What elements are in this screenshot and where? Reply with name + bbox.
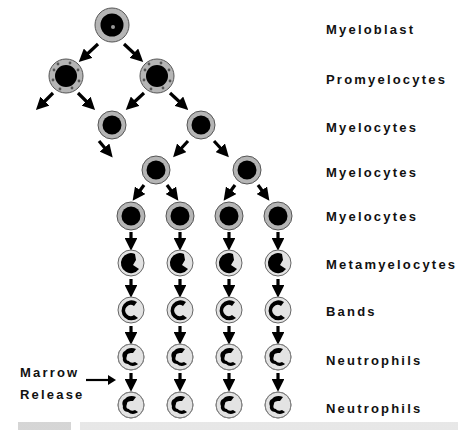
neutrophil-cell [118, 392, 144, 418]
stage-label-myelocytes-1: Myelocytes [326, 120, 418, 135]
stage-label-neutrophils-1: Neutrophils [326, 353, 422, 368]
neutrophil-cell [265, 344, 291, 370]
myelocyte-cell [117, 202, 145, 230]
marrow-release-arrow [86, 375, 116, 385]
myelocyte-cell [166, 202, 194, 230]
stage-label-metamyelocytes: Metamyelocytes [326, 257, 457, 272]
cells [49, 8, 292, 418]
myelocyte-cell [98, 111, 126, 139]
band-cell [216, 297, 242, 323]
myelocyte-cell [264, 202, 292, 230]
vertical-arrows [131, 232, 278, 386]
metamyelocyte-cell [118, 250, 144, 276]
promyelocyte-cell [49, 59, 83, 93]
stage-label-myelocytes-2: Myelocytes [326, 165, 418, 180]
neutrophil-cell [216, 392, 242, 418]
neutrophil-cell [167, 392, 193, 418]
stage-label-myeloblast: Myeloblast [326, 22, 415, 37]
band-cell [265, 297, 291, 323]
myeloblast-cell [95, 8, 129, 42]
myelocyte-cell [215, 202, 243, 230]
neutrophil-cell [265, 392, 291, 418]
neutrophil-cell [118, 344, 144, 370]
metamyelocyte-cell [167, 250, 193, 276]
marrow-release-label-line1: Marrow [20, 365, 79, 380]
promyelocyte-cell [140, 59, 174, 93]
neutrophil-cell [216, 344, 242, 370]
myelocyte-cell [142, 156, 170, 184]
band-cell [118, 297, 144, 323]
band-cell [167, 297, 193, 323]
myelocyte-cell [187, 111, 215, 139]
metamyelocyte-cell [216, 250, 242, 276]
stage-label-promyelocytes: Promyelocytes [326, 72, 447, 87]
myelocyte-cell [233, 156, 261, 184]
neutrophil-cell [167, 344, 193, 370]
marrow-release-label-line2: Release [20, 387, 85, 402]
cropped-caption [18, 422, 458, 430]
metamyelocyte-cell [265, 250, 291, 276]
stage-label-neutrophils-2: Neutrophils [326, 401, 422, 416]
stage-label-myelocytes-3: Myelocytes [326, 209, 418, 224]
stage-label-bands: Bands [326, 304, 377, 319]
